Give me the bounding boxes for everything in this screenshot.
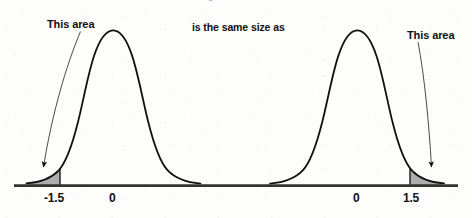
normal-distribution-figure: Using Tables of the Normal Distribution …	[0, 0, 472, 218]
right-distribution-group	[270, 30, 444, 185]
right-area-annotation-label: This area	[407, 30, 454, 41]
tick-label-zero-left-curve: 0	[109, 192, 115, 204]
left-annotation-arrow	[44, 32, 81, 168]
comparison-annotation-label: is the same size as	[192, 22, 285, 33]
left-distribution-group	[27, 30, 201, 185]
tick-label-negative-one-point-five: -1.5	[44, 192, 64, 204]
left-normal-curve	[27, 30, 201, 183]
right-annotation-arrow	[418, 42, 432, 167]
left-area-annotation-label: This area	[47, 19, 94, 30]
tick-label-zero-right-curve: 0	[353, 192, 359, 204]
right-normal-curve	[270, 30, 444, 183]
tick-label-positive-one-point-five: 1.5	[403, 192, 419, 204]
